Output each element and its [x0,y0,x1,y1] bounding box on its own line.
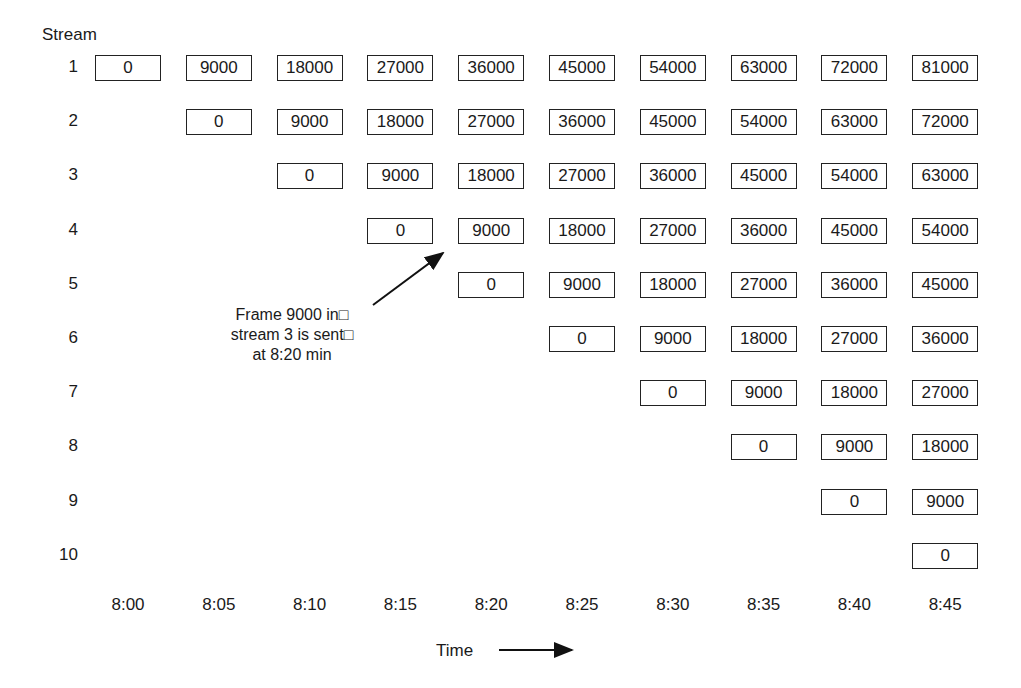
arrows-overlay [0,0,1021,688]
annotation-arrow-icon [373,253,443,305]
